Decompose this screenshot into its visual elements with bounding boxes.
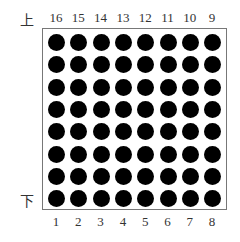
pin-label: 15 xyxy=(68,11,88,25)
led-dot xyxy=(204,146,221,163)
side-label-bottom: 下 xyxy=(20,195,34,209)
led-dot xyxy=(70,123,87,140)
led-dot xyxy=(70,190,87,207)
led-dot xyxy=(93,146,110,163)
led-dot xyxy=(137,123,154,140)
led-dot xyxy=(137,56,154,73)
led-dot xyxy=(115,146,132,163)
led-dot xyxy=(48,123,65,140)
pin-label: 10 xyxy=(180,11,200,25)
led-dot xyxy=(93,56,110,73)
led-dot xyxy=(182,56,199,73)
led-dot xyxy=(160,56,177,73)
led-dot xyxy=(93,190,110,207)
led-dot xyxy=(48,146,65,163)
led-dot xyxy=(160,79,177,96)
pin-label: 7 xyxy=(180,215,200,229)
led-dot xyxy=(182,190,199,207)
pin-label: 3 xyxy=(91,215,111,229)
led-dot xyxy=(48,34,65,51)
led-dot xyxy=(137,101,154,118)
led-dot xyxy=(204,56,221,73)
led-dot xyxy=(137,79,154,96)
led-dot xyxy=(115,190,132,207)
led-dot xyxy=(48,79,65,96)
led-dot xyxy=(204,34,221,51)
pin-label: 14 xyxy=(91,11,111,25)
led-dot xyxy=(93,123,110,140)
led-dot xyxy=(115,101,132,118)
led-dot xyxy=(204,190,221,207)
led-dot xyxy=(137,34,154,51)
pin-label: 6 xyxy=(158,215,178,229)
led-dot xyxy=(48,190,65,207)
led-dot xyxy=(93,168,110,185)
led-dot xyxy=(70,34,87,51)
led-dot xyxy=(204,79,221,96)
led-dot xyxy=(93,79,110,96)
led-dot xyxy=(70,101,87,118)
led-dot xyxy=(182,101,199,118)
led-dot xyxy=(182,146,199,163)
led-dot xyxy=(204,101,221,118)
led-dot xyxy=(182,79,199,96)
pin-label: 9 xyxy=(202,11,222,25)
led-dot xyxy=(115,123,132,140)
led-dot xyxy=(93,34,110,51)
pin-label: 4 xyxy=(113,215,133,229)
led-dot xyxy=(182,34,199,51)
led-dot xyxy=(48,101,65,118)
led-dot xyxy=(137,168,154,185)
led-dot xyxy=(115,34,132,51)
led-dot xyxy=(115,168,132,185)
led-matrix-frame xyxy=(42,28,227,210)
led-dot xyxy=(182,123,199,140)
pin-label: 12 xyxy=(135,11,155,25)
led-dot xyxy=(160,101,177,118)
led-dot xyxy=(48,56,65,73)
led-dot xyxy=(160,34,177,51)
led-dot xyxy=(48,168,65,185)
led-dot xyxy=(160,123,177,140)
led-dot xyxy=(70,56,87,73)
led-dot xyxy=(115,79,132,96)
side-label-top: 上 xyxy=(20,14,34,28)
led-dot xyxy=(70,146,87,163)
led-dot xyxy=(70,79,87,96)
led-dot xyxy=(137,190,154,207)
led-dot xyxy=(160,190,177,207)
pin-label: 16 xyxy=(46,11,66,25)
led-dot xyxy=(115,56,132,73)
led-dot xyxy=(160,146,177,163)
led-dot xyxy=(137,146,154,163)
pin-label: 11 xyxy=(158,11,178,25)
pin-label: 2 xyxy=(68,215,88,229)
pin-label: 13 xyxy=(113,11,133,25)
led-dot xyxy=(70,168,87,185)
led-dot xyxy=(182,168,199,185)
led-dot xyxy=(204,168,221,185)
pin-label: 8 xyxy=(202,215,222,229)
pin-label: 1 xyxy=(46,215,66,229)
pin-label: 5 xyxy=(135,215,155,229)
led-dot xyxy=(204,123,221,140)
led-dot xyxy=(93,101,110,118)
led-dot xyxy=(160,168,177,185)
